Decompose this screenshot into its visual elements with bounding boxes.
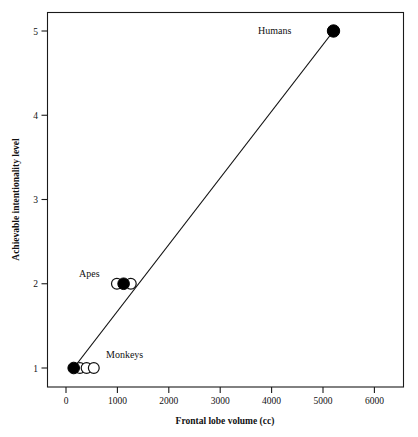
x-axis-tick-labels: 0 1000 2000 3000 4000 5000 6000 [64,396,385,406]
x-tick-label: 0 [64,396,69,406]
x-tick-label: 6000 [365,396,384,406]
y-tick-label: 4 [33,111,38,121]
x-tick-label: 3000 [211,396,230,406]
chart-figure: 0 1000 2000 3000 4000 5000 6000 1 2 3 4 … [0,0,418,437]
x-tick-label: 4000 [262,396,281,406]
y-tick-label: 2 [33,279,38,289]
x-tick-label: 5000 [314,396,333,406]
y-tick-label: 5 [33,27,38,37]
annotation-monkeys: Monkeys [106,349,143,360]
data-point-filled [68,362,80,374]
y-tick-label: 3 [33,195,38,205]
y-axis-tick-labels: 1 2 3 4 5 [33,27,38,374]
trend-line [74,31,334,368]
y-axis-ticks [42,31,48,368]
x-axis-ticks [66,387,374,393]
data-point-filled [118,278,130,290]
annotation-humans: Humans [258,25,291,36]
x-axis-title: Frontal lobe volume (cc) [176,416,275,427]
y-tick-label: 1 [33,364,38,374]
x-tick-label: 2000 [159,396,178,406]
scatter-plot-svg: 0 1000 2000 3000 4000 5000 6000 1 2 3 4 … [0,0,418,437]
plot-frame [48,13,404,388]
y-axis-title: Achievable intentionality level [11,138,21,261]
data-point-filled [327,25,339,37]
data-point-open [88,363,99,374]
annotation-apes: Apes [79,268,100,279]
x-tick-label: 1000 [108,396,127,406]
